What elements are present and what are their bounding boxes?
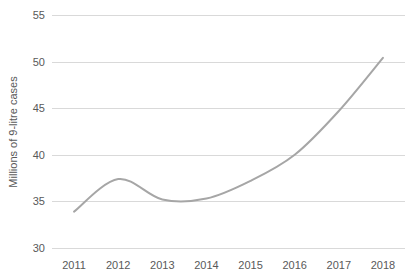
x-tick-label: 2012 [106, 259, 130, 271]
y-tick-label: 50 [33, 56, 45, 68]
x-tick-label: 2016 [282, 259, 306, 271]
y-axis-title-label: Millions of 9-litre cases [7, 76, 19, 188]
x-tick-label: 2014 [194, 259, 218, 271]
chart-background [0, 0, 413, 280]
x-tick-label: 2015 [238, 259, 262, 271]
x-tick-label: 2017 [327, 259, 351, 271]
x-tick-label: 2013 [150, 259, 174, 271]
x-tick-label: 2011 [62, 259, 86, 271]
y-axis-title: Millions of 9-litre cases [7, 76, 19, 188]
y-tick-label: 55 [33, 9, 45, 21]
y-tick-label: 35 [33, 195, 45, 207]
chart-canvas: 303540455055 201120122013201420152016201… [0, 0, 413, 280]
x-tick-label: 2018 [371, 259, 395, 271]
y-tick-label: 30 [33, 242, 45, 254]
line-chart: 303540455055 201120122013201420152016201… [0, 0, 413, 280]
y-tick-label: 45 [33, 102, 45, 114]
y-tick-label: 40 [33, 149, 45, 161]
